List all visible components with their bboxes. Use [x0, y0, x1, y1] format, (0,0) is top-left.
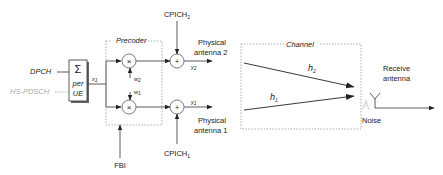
svg-text:+: +	[175, 104, 179, 111]
receive-line1: Receive	[383, 64, 410, 73]
adder-upper: +	[170, 54, 184, 68]
antenna2-line2: antenna 2	[194, 48, 227, 57]
adder-lower: +	[170, 100, 184, 114]
receive-antenna-icon	[370, 93, 434, 108]
antenna2-line1: Physical	[198, 38, 226, 47]
antenna1-line2: antenna 1	[194, 126, 227, 135]
dpch-label: DPCH	[30, 67, 52, 76]
y2-label: y2	[190, 64, 197, 71]
h2-path	[244, 63, 354, 87]
w2-label: w2	[133, 76, 141, 83]
x1-label: x1	[91, 76, 98, 83]
summer-ue: UE	[73, 89, 84, 98]
h2-label: h2	[308, 63, 316, 74]
precoding-diagram: DPCH HS-PDSCH Σ per UE x1 Precoder × w2 …	[0, 0, 443, 175]
noise-label: Noise	[362, 116, 381, 125]
y1-label: y1	[190, 99, 197, 106]
w1-label: w1	[133, 89, 141, 96]
svg-text:×: ×	[127, 103, 132, 112]
input-dpch: DPCH	[30, 67, 69, 76]
input-hs-pdsch: HS-PDSCH	[10, 87, 69, 96]
svg-text:×: ×	[127, 57, 132, 66]
channel-title: Channel	[286, 40, 314, 49]
cpich2-label: CPICH2	[164, 10, 190, 20]
receive-line2: antenna	[383, 74, 411, 83]
multiplier-lower: ×	[122, 100, 136, 114]
multiplier-upper: ×	[122, 54, 136, 68]
summer-block: Σ per UE	[69, 60, 89, 103]
noise-icon	[362, 101, 369, 110]
svg-text:+: +	[175, 58, 179, 65]
fbi-label: FBI	[114, 161, 126, 170]
antenna1-line1: Physical	[198, 116, 226, 125]
h1-label: h1	[270, 92, 278, 103]
hs-pdsch-label: HS-PDSCH	[10, 87, 50, 96]
precoder-title: Precoder	[116, 36, 147, 45]
sigma-symbol: Σ	[75, 63, 82, 75]
summer-per: per	[72, 79, 84, 88]
h1-path	[244, 96, 354, 110]
cpich1-label: CPICH1	[164, 149, 190, 159]
